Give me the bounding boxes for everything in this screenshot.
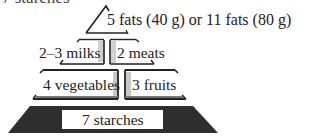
- fruits-label: 3 fruits: [132, 77, 176, 93]
- starches-label: 7 starches: [82, 112, 144, 128]
- vegetables-label: 4 vegetables: [43, 77, 120, 93]
- fats-label: 5 fats (40 g) or 11 fats (80 g): [107, 12, 291, 28]
- meats-label: 2 meats: [117, 45, 165, 61]
- milks-label: 2–3 milks: [39, 45, 101, 61]
